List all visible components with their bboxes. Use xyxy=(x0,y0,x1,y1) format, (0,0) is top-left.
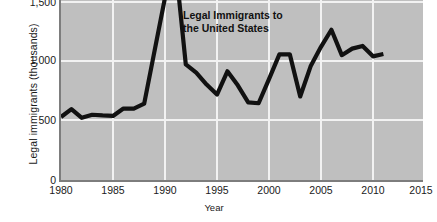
series-annotation-line-1: Legal Immigrants to xyxy=(183,9,313,22)
x-tick-label: 1990 xyxy=(141,184,189,196)
x-tick-label: 2000 xyxy=(245,184,293,196)
clipped-page-text xyxy=(0,216,428,222)
x-tick-label: 2015 xyxy=(397,184,437,196)
x-axis-title: Year xyxy=(0,202,428,213)
series-annotation: Legal Immigrants to the United States xyxy=(183,9,313,35)
x-tick-label: 2005 xyxy=(297,184,345,196)
x-tick-label: 2010 xyxy=(349,184,397,196)
y-tick-label: 1,000 xyxy=(12,55,56,66)
x-axis-tick-labels: 1980 1985 1990 1995 2000 2005 2010 2015 xyxy=(0,184,428,200)
x-tick-label: 1985 xyxy=(89,184,137,196)
series-annotation-line-2: the United States xyxy=(183,22,313,35)
x-tick-label: 1995 xyxy=(193,184,241,196)
y-tick-label: 500 xyxy=(12,115,56,126)
y-tick-label: 1,500 xyxy=(12,0,56,8)
x-tick-label: 1980 xyxy=(37,184,85,196)
